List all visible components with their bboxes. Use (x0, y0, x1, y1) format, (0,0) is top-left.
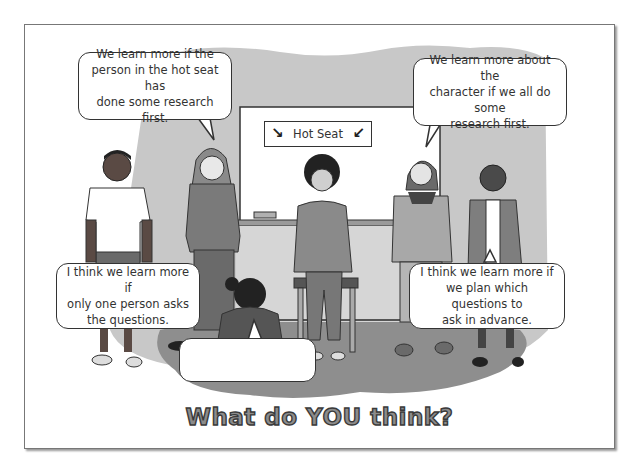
speech-bubble-bottom-right: I think we learn more if we plan which q… (409, 263, 565, 329)
bubble-text: We learn more if the person in the hot s… (87, 46, 223, 126)
arrow-down-right-icon: ↘ (271, 124, 284, 142)
arrow-down-left-icon: ↙ (352, 124, 365, 142)
bubble-text: I think we learn more if only one person… (65, 264, 191, 328)
speech-bubble-top-left: We learn more if the person in the hot s… (78, 52, 232, 120)
caption-what-do-you-think: What do YOU think? (24, 404, 615, 430)
bubble-text: I think we learn more if we plan which q… (418, 264, 556, 328)
speech-bubble-bottom-left: I think we learn more if only one person… (56, 263, 200, 329)
bubble-text: We learn more about the character if we … (422, 52, 558, 132)
hot-seat-sign: ↘ Hot Seat ↙ (264, 121, 372, 147)
speech-bubble-top-right: We learn more about the character if we … (413, 58, 567, 126)
eraser (254, 212, 276, 218)
hot-seat-label: Hot Seat (293, 127, 343, 141)
speech-bubble-empty-response[interactable] (179, 338, 316, 382)
